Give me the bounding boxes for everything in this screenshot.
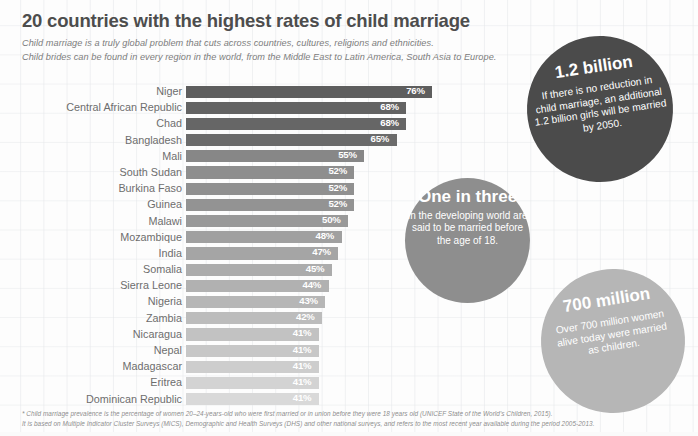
- bar-value-label: 52%: [328, 182, 347, 194]
- bar-row: Malawi50%: [0, 214, 698, 230]
- bar-value-label: 41%: [293, 327, 312, 339]
- bar-value-label: 41%: [293, 344, 312, 356]
- subtitle-line-2: Child brides can be found in every regio…: [22, 51, 582, 64]
- bar-category-label: Guinea: [147, 198, 182, 211]
- page-title: 20 countries with the highest rates of c…: [22, 10, 582, 31]
- bar-category-label: Dominican Republic: [86, 393, 182, 406]
- bar-value-label: 41%: [293, 360, 312, 372]
- bar-value-label: 47%: [312, 246, 331, 258]
- bar: [186, 102, 406, 114]
- bar-value-label: 44%: [303, 279, 322, 291]
- bar-category-label: Nicaragua: [133, 328, 182, 341]
- bar-value-label: 42%: [296, 311, 315, 323]
- bar-category-label: Burkina Faso: [118, 182, 182, 195]
- bottom-edge: [0, 432, 698, 436]
- callout-circle-one-in-three: One in three In the developing world are…: [405, 178, 530, 303]
- bar-fill: [186, 102, 406, 114]
- footnote-line-2: It is based on Multiple Indicator Cluste…: [22, 419, 682, 429]
- bar-category-label: Zambia: [146, 312, 182, 325]
- bar-row: Guinea52%: [0, 197, 698, 213]
- bar-value-label: 68%: [380, 117, 399, 129]
- bar-value-label: 65%: [371, 133, 390, 145]
- bar-value-label: 55%: [338, 149, 357, 161]
- bar-category-label: Mozambique: [120, 231, 182, 244]
- bar-fill: [186, 86, 432, 98]
- bar-value-label: 76%: [406, 85, 425, 97]
- callout-body: If there is no reduction in child marria…: [530, 72, 670, 142]
- bar-row: Mozambique48%: [0, 230, 698, 246]
- infographic-canvas: 20 countries with the highest rates of c…: [0, 0, 698, 436]
- footnote-line-1: * Child marriage prevalence is the perce…: [22, 409, 682, 419]
- bar-category-label: South Sudan: [120, 166, 182, 179]
- bar-fill: [186, 134, 397, 146]
- footnotes: * Child marriage prevalence is the perce…: [22, 409, 682, 429]
- subtitle-line-1: Child marriage is a truly global problem…: [22, 37, 582, 50]
- bar-value-label: 43%: [299, 295, 318, 307]
- bar-category-label: Niger: [156, 85, 182, 98]
- bar-value-label: 45%: [306, 263, 325, 275]
- bar-value-label: 52%: [328, 198, 347, 210]
- header: 20 countries with the highest rates of c…: [22, 10, 582, 64]
- bar-category-label: Chad: [156, 117, 182, 130]
- bar-category-label: Mali: [162, 150, 182, 163]
- bar-category-label: Somalia: [143, 263, 182, 276]
- callout-headline: One in three: [418, 188, 517, 206]
- bar-value-label: 41%: [293, 376, 312, 388]
- bar-category-label: Madagascar: [123, 360, 182, 373]
- bar-value-label: 68%: [380, 101, 399, 113]
- bar-category-label: Nepal: [154, 344, 182, 357]
- bar: [186, 134, 397, 146]
- bar-category-label: India: [159, 247, 182, 260]
- bar-value-label: 52%: [328, 165, 347, 177]
- bar-category-label: Central African Republic: [66, 101, 182, 114]
- bar-category-label: Malawi: [148, 215, 182, 228]
- callout-body: In the developing world are said to be m…: [407, 210, 529, 248]
- subtitle: Child marriage is a truly global problem…: [22, 37, 582, 64]
- bar-value-label: 50%: [322, 214, 341, 226]
- bar-category-label: Nigeria: [148, 295, 182, 308]
- bar-row: Burkina Faso52%: [0, 181, 698, 197]
- bar-category-label: Eritrea: [150, 376, 182, 389]
- bar-value-label: 41%: [293, 392, 312, 404]
- bar-category-label: Sierra Leone: [120, 279, 182, 292]
- bar-category-label: Bangladesh: [125, 134, 182, 147]
- bar: [186, 118, 406, 130]
- bar: [186, 86, 432, 98]
- bar-value-label: 48%: [316, 230, 335, 242]
- bar-row: India47%: [0, 246, 698, 262]
- bar-fill: [186, 118, 406, 130]
